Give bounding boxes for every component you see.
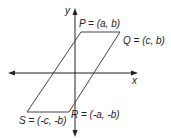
vertex-r-label: R = (-a, -b)	[71, 110, 120, 120]
vertex-q-label: Q = (c, b)	[123, 36, 165, 46]
x-axis-label: x	[132, 76, 137, 86]
x-axis	[8, 71, 138, 76]
y-axis-up-arrow-icon	[73, 8, 78, 15]
y-axis-label: y	[65, 6, 70, 16]
parallelogram	[27, 32, 120, 112]
vertex-s-label: S = (-c, -b)	[19, 116, 67, 126]
vertex-p-label: P = (a, b)	[79, 19, 120, 29]
y-axis-down-arrow-icon	[73, 130, 78, 137]
x-axis-left-arrow-icon	[8, 71, 15, 76]
